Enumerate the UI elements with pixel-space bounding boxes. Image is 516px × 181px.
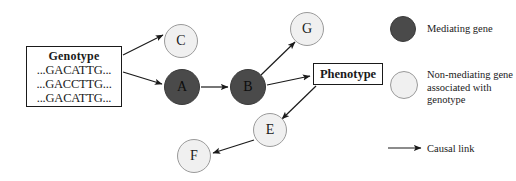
legend-mediating-label: Mediating gene — [427, 23, 493, 36]
genotype-sequence-2: ...GACCTTG... — [27, 77, 121, 91]
phenotype-box: Phenotype — [313, 63, 383, 85]
node-a: A — [164, 69, 200, 105]
genotype-box: Genotype ...GACATTG... ...GACCTTG... ...… — [26, 46, 122, 107]
node-e: E — [253, 113, 287, 147]
edge-e-to-f — [213, 140, 254, 153]
node-g: G — [290, 12, 324, 46]
diagram-canvas: Genotype ...GACATTG... ...GACCTTG... ...… — [0, 0, 516, 181]
legend-mediating-swatch — [390, 16, 416, 42]
legend-causal-link-label: Causal link — [427, 143, 475, 156]
node-c: C — [164, 24, 198, 58]
edge-b-to-g — [261, 42, 295, 75]
genotype-title: Genotype — [27, 49, 121, 63]
edge-genotype-to-c — [123, 35, 163, 55]
edge-b-to-phenotype — [267, 76, 310, 85]
node-b: B — [230, 69, 266, 105]
genotype-sequence-1: ...GACATTG... — [27, 63, 121, 77]
legend-non-mediating-label: Non-mediating gene associated with genot… — [427, 69, 513, 107]
edge-phenotype-to-e — [282, 86, 316, 119]
genotype-sequence-3: ...GACATTG... — [27, 91, 121, 105]
legend-non-mediating-swatch — [390, 71, 418, 99]
edge-genotype-to-a — [123, 72, 162, 84]
node-f: F — [177, 139, 211, 173]
